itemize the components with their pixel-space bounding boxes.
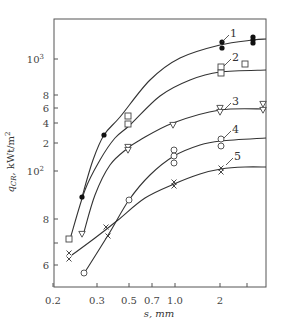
marker-series-5 — [67, 257, 72, 262]
y-axis-ticks: 103864210286 — [27, 53, 58, 271]
curve-number-labels: 12345 — [222, 27, 241, 165]
chart: 0.20.30.50.71.02 103864210286 12345 s, m… — [0, 0, 281, 332]
curve-label-3: 3 — [232, 95, 239, 108]
marker-series-2 — [218, 70, 224, 76]
marker-series-5 — [67, 251, 72, 256]
marker-series-4 — [218, 143, 224, 149]
y-tick-label: 6 — [43, 260, 49, 271]
marker-series-2 — [242, 61, 248, 67]
label-leader-5 — [226, 158, 233, 165]
marker-series-5 — [104, 225, 109, 230]
marker-series-2 — [125, 121, 131, 127]
y-tick-label: 102 — [27, 165, 44, 177]
label-leader-1 — [222, 35, 229, 42]
marker-series-3 — [217, 109, 223, 115]
marker-series-5 — [219, 170, 224, 175]
curve-label-4: 4 — [232, 123, 239, 136]
y-tick-label: 2 — [43, 138, 49, 149]
label-leader-4 — [224, 131, 231, 138]
y-tick-label: 103 — [27, 53, 44, 65]
marker-series-4 — [171, 153, 177, 159]
marker-series-3 — [260, 101, 266, 107]
curve-label-1: 1 — [230, 27, 237, 40]
marker-series-2 — [218, 64, 224, 70]
marker-series-1 — [250, 40, 255, 45]
x-tick-label: 0.3 — [89, 295, 105, 306]
marker-series-4 — [81, 270, 87, 276]
y-tick-label: 8 — [43, 90, 49, 101]
y-tick-label: 6 — [43, 103, 49, 114]
y-tick-label: 4 — [43, 118, 49, 129]
curve-label-2: 2 — [232, 51, 239, 64]
y-tick-label: 8 — [43, 214, 49, 225]
marker-series-4 — [171, 160, 177, 166]
x-axis-label: s, mm — [144, 308, 174, 319]
x-tick-label: 2 — [217, 295, 223, 306]
curve-label-5: 5 — [234, 150, 241, 163]
marker-series-3 — [79, 231, 85, 237]
marker-series-1 — [101, 132, 106, 137]
marker-series-3 — [170, 122, 176, 128]
marker-series-4 — [218, 136, 224, 142]
marker-series-2 — [66, 236, 72, 242]
marker-series-4 — [126, 197, 132, 203]
x-tick-label: 0.7 — [144, 295, 160, 306]
marker-series-1 — [219, 45, 224, 50]
marker-series-3 — [260, 107, 266, 113]
y-axis-label: qCR, kWt/m2 — [4, 131, 18, 192]
x-tick-label: 1.0 — [167, 295, 183, 306]
marker-series-1 — [79, 194, 84, 199]
x-tick-label: 0.2 — [45, 295, 61, 306]
x-axis-ticks: 0.20.30.50.71.02 — [45, 283, 247, 306]
marker-series-2 — [125, 113, 131, 119]
label-leader-2 — [224, 59, 231, 66]
marker-series-4 — [171, 147, 177, 153]
x-tick-label: 0.5 — [121, 295, 137, 306]
